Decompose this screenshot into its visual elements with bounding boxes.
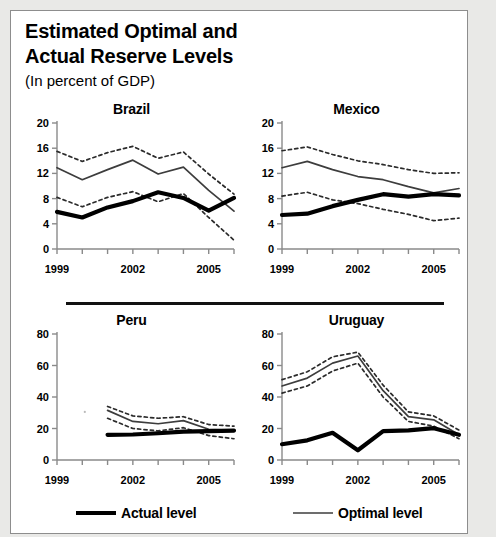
svg-text:60: 60 (37, 360, 49, 372)
svg-text:0: 0 (43, 454, 49, 466)
svg-text:4: 4 (268, 218, 275, 230)
svg-text:2002: 2002 (346, 474, 370, 486)
svg-text:16: 16 (262, 142, 274, 154)
plot-mexico: 048121620199920022005 (244, 111, 468, 291)
svg-text:2002: 2002 (346, 263, 370, 275)
legend-label-optimal: Optimal level (338, 505, 423, 521)
panel-peru: Peru 020406080199920022005 (19, 312, 244, 502)
panel-grid: Brazil 048121620199920022005 Mexico 0481… (11, 101, 468, 501)
svg-text:40: 40 (37, 391, 49, 403)
title-block: Estimated Optimal and Actual Reserve Lev… (25, 19, 445, 92)
figure-card: Estimated Optimal and Actual Reserve Lev… (10, 10, 468, 534)
legend-line-actual-icon (74, 506, 118, 520)
svg-text:0: 0 (268, 243, 274, 255)
svg-text:1999: 1999 (270, 263, 294, 275)
plot-uruguay: 020406080199920022005 (244, 322, 468, 502)
svg-text:2005: 2005 (196, 263, 220, 275)
svg-text:1999: 1999 (45, 474, 69, 486)
svg-text:0: 0 (268, 454, 274, 466)
svg-text:16: 16 (37, 142, 49, 154)
svg-text:1999: 1999 (45, 263, 69, 275)
svg-text:8: 8 (43, 193, 49, 205)
legend-line-optimal-icon (291, 506, 335, 520)
legend-item-actual: Actual level (74, 505, 196, 521)
panel-brazil: Brazil 048121620199920022005 (19, 101, 244, 291)
figure-subtitle: (In percent of GDP) (25, 70, 445, 92)
panel-uruguay: Uruguay 020406080199920022005 (244, 312, 468, 502)
row-divider (66, 302, 444, 305)
panel-mexico: Mexico 048121620199920022005 (244, 101, 468, 291)
svg-text:4: 4 (43, 218, 50, 230)
svg-text:2002: 2002 (121, 263, 145, 275)
legend: Actual level Optimal level (11, 503, 468, 529)
svg-text:8: 8 (268, 193, 274, 205)
svg-text:12: 12 (37, 167, 49, 179)
svg-text:40: 40 (262, 391, 274, 403)
svg-text:20: 20 (37, 423, 49, 435)
figure-title-line-2: Actual Reserve Levels (25, 44, 445, 69)
svg-text:20: 20 (262, 423, 274, 435)
svg-text:20: 20 (37, 117, 49, 129)
svg-text:0: 0 (43, 243, 49, 255)
plot-brazil: 048121620199920022005 (19, 111, 244, 291)
svg-text:1999: 1999 (270, 474, 294, 486)
plot-peru: 020406080199920022005 (19, 322, 244, 502)
svg-text:2002: 2002 (121, 474, 145, 486)
svg-text:60: 60 (262, 360, 274, 372)
legend-label-actual: Actual level (121, 505, 196, 521)
svg-text:2005: 2005 (196, 474, 220, 486)
svg-text:80: 80 (37, 328, 49, 340)
legend-item-optimal: Optimal level (291, 505, 423, 521)
svg-text:2005: 2005 (421, 474, 445, 486)
svg-text:12: 12 (262, 167, 274, 179)
svg-text:20: 20 (262, 117, 274, 129)
svg-text:2005: 2005 (421, 263, 445, 275)
figure-title-line-1: Estimated Optimal and (25, 19, 445, 44)
svg-text:80: 80 (262, 328, 274, 340)
